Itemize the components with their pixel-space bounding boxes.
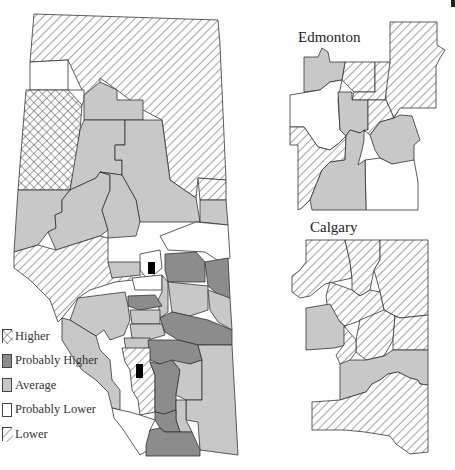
region-e-average-2	[168, 282, 208, 316]
legend-item-probably-higher: Probably Higher	[2, 351, 98, 371]
edm-se-probably-lower	[365, 158, 418, 210]
edm-ne-lower	[385, 22, 445, 118]
region-c-average-4	[108, 262, 140, 278]
edm-n-lower-1	[342, 62, 375, 92]
map-legend: Higher Probably Higher Average Probably …	[2, 326, 98, 449]
legend-label: Probably Higher	[15, 353, 98, 368]
dark-gray-swatch-icon	[2, 354, 12, 368]
region-c-probably-higher-3	[128, 295, 162, 310]
calgary-title: Calgary	[310, 219, 357, 236]
light-gray-swatch-icon	[2, 378, 12, 392]
legend-label: Probably Lower	[15, 402, 96, 417]
region-edmonton-city	[148, 262, 155, 274]
region-calgary-city	[136, 364, 143, 378]
legend-item-probably-lower: Probably Lower	[2, 400, 98, 420]
white-swatch-icon	[2, 403, 12, 417]
cal-e-lower	[393, 315, 428, 350]
legend-label: Average	[15, 378, 56, 393]
page-edge-mark	[451, 0, 455, 7]
edmonton-title: Edmonton	[298, 29, 361, 46]
legend-label: Lower	[15, 427, 48, 442]
calgary-inset-map	[292, 240, 428, 454]
diagonal-hatch-swatch-icon	[2, 427, 12, 441]
crosshatch-swatch-icon	[2, 329, 12, 343]
region-calgary-lower	[122, 348, 155, 415]
region-e-average	[200, 200, 228, 225]
legend-item-higher: Higher	[2, 326, 98, 346]
region-c-average-7	[130, 310, 160, 324]
legend-item-lower: Lower	[2, 424, 98, 444]
region-s-probably-higher-8	[146, 428, 200, 456]
legend-label: Higher	[15, 329, 50, 344]
region-c-probably-lower-2	[132, 275, 162, 290]
legend-item-average: Average	[2, 375, 98, 395]
region-e-lower-patch	[198, 178, 226, 200]
edmonton-inset-map	[290, 22, 445, 210]
region-ne-probably-higher-1	[165, 252, 205, 282]
region-nw-probably-lower	[30, 60, 68, 90]
